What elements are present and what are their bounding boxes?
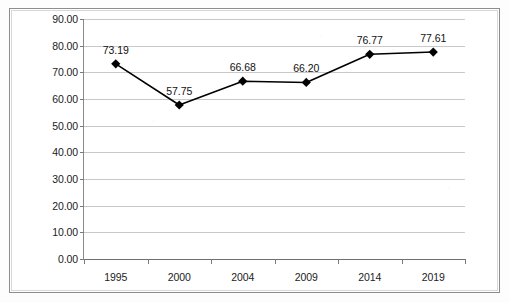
data-point-marker bbox=[111, 59, 120, 68]
y-axis-tick-label: 30.00 bbox=[52, 173, 78, 185]
x-axis-tick-mark bbox=[338, 259, 339, 264]
data-point-marker bbox=[429, 47, 438, 56]
data-point-label: 66.20 bbox=[293, 62, 319, 74]
series-line bbox=[116, 52, 434, 105]
x-axis-tick-mark bbox=[211, 259, 212, 264]
x-axis-tick-label: 2000 bbox=[168, 271, 191, 283]
data-point-marker bbox=[365, 50, 374, 59]
series-line-group bbox=[84, 19, 465, 259]
y-axis-tick-label: 60.00 bbox=[52, 93, 78, 105]
chart-screenshot: 0.0010.0020.0030.0040.0050.0060.0070.008… bbox=[0, 0, 510, 303]
data-point-label: 77.61 bbox=[420, 32, 446, 44]
data-point-label: 73.19 bbox=[103, 44, 129, 56]
x-axis-tick-label: 2014 bbox=[358, 271, 381, 283]
x-axis-tick-mark bbox=[84, 259, 85, 264]
y-axis-tick-label: 10.00 bbox=[52, 226, 78, 238]
x-axis-tick-label: 2019 bbox=[422, 271, 445, 283]
x-axis-tick-label: 1995 bbox=[104, 271, 127, 283]
x-axis-tick-label: 2004 bbox=[231, 271, 254, 283]
data-point-label: 57.75 bbox=[166, 85, 192, 97]
data-point-marker bbox=[238, 77, 247, 86]
data-point-label: 66.68 bbox=[230, 61, 256, 73]
y-axis-tick-label: 90.00 bbox=[52, 13, 78, 25]
x-axis-tick-mark bbox=[275, 259, 276, 264]
y-axis-tick-label: 40.00 bbox=[52, 146, 78, 158]
x-axis-tick-label: 2009 bbox=[295, 271, 318, 283]
data-point-label: 76.77 bbox=[357, 34, 383, 46]
y-axis-tick-label: 0.00 bbox=[58, 253, 78, 265]
y-axis-tick-label: 50.00 bbox=[52, 120, 78, 132]
y-axis-tick-label: 20.00 bbox=[52, 200, 78, 212]
x-axis-tick-mark bbox=[465, 259, 466, 264]
x-axis-tick-mark bbox=[402, 259, 403, 264]
chart-frame: 0.0010.0020.0030.0040.0050.0060.0070.008… bbox=[9, 8, 500, 293]
plot-area: 0.0010.0020.0030.0040.0050.0060.0070.008… bbox=[84, 19, 465, 259]
y-axis-tick-label: 80.00 bbox=[52, 40, 78, 52]
y-axis-tick-label: 70.00 bbox=[52, 66, 78, 78]
series-markers bbox=[111, 47, 438, 109]
data-point-marker bbox=[302, 78, 311, 87]
x-axis-tick-mark bbox=[148, 259, 149, 264]
data-point-marker bbox=[175, 100, 184, 109]
